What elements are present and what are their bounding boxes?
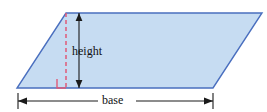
height-label: height — [72, 45, 102, 57]
diagram-canvas — [0, 0, 267, 112]
parallelogram-area-diagram: height base — [0, 0, 267, 112]
base-label: base — [102, 94, 123, 106]
parallelogram-shape — [17, 13, 262, 88]
